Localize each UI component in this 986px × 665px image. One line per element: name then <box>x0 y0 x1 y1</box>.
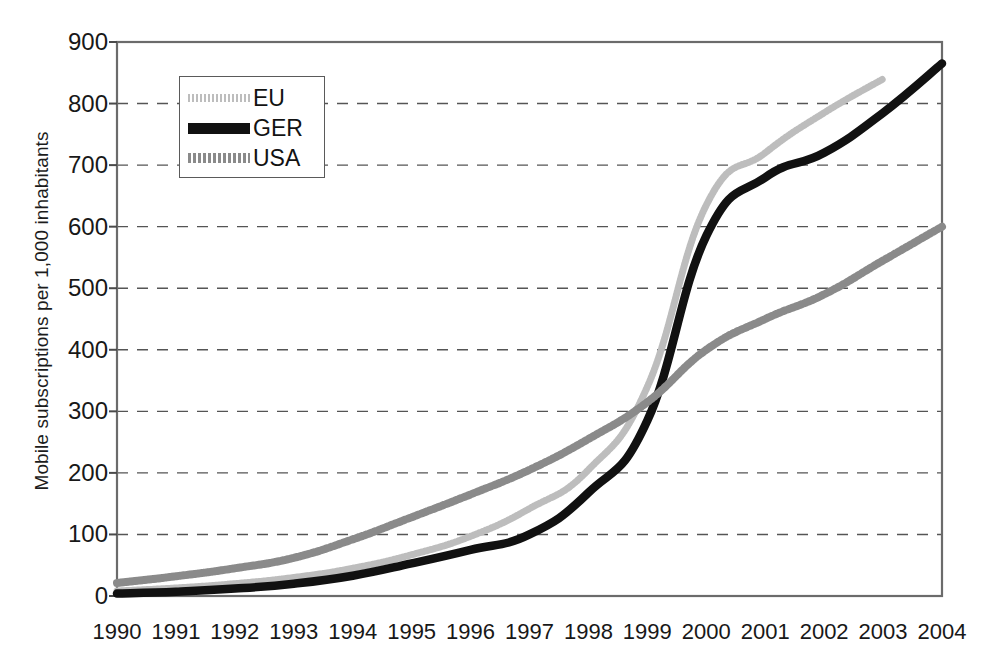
legend-label: GER <box>253 117 303 140</box>
x-axis-tick-label: 2000 <box>682 621 731 643</box>
chart-container: Mobile subscriptions per 1,000 inhabitan… <box>0 0 986 665</box>
x-axis-tick-label: 1997 <box>505 621 554 643</box>
x-axis-tick-label: 1993 <box>269 621 318 643</box>
series-line-usa <box>117 227 942 583</box>
legend-item-eu[interactable]: EU <box>188 83 285 113</box>
legend-swatch-icon <box>188 123 250 134</box>
x-axis-tick-label: 1992 <box>210 621 259 643</box>
legend-item-usa[interactable]: USA <box>188 143 300 173</box>
chart-legend: EUGERUSA <box>179 76 325 178</box>
legend-label: EU <box>253 87 285 110</box>
x-axis-tick-label: 1999 <box>623 621 672 643</box>
legend-item-ger[interactable]: GER <box>188 113 303 143</box>
x-axis-tick-label: 1998 <box>564 621 613 643</box>
x-axis-tick-label: 2003 <box>859 621 908 643</box>
x-axis-tick-label: 1995 <box>387 621 436 643</box>
x-axis-tick-label: 1994 <box>328 621 377 643</box>
x-axis-tick-label: 1991 <box>151 621 200 643</box>
legend-swatch-icon <box>188 153 250 163</box>
x-axis-tick-label: 2001 <box>741 621 790 643</box>
x-axis-tick-label: 1990 <box>93 621 142 643</box>
x-axis-tick-label: 2004 <box>918 621 967 643</box>
legend-label: USA <box>253 147 300 170</box>
x-axis-tick-labels: 1990199119921993199419951996199719981999… <box>0 613 986 653</box>
x-axis-tick-label: 2002 <box>800 621 849 643</box>
x-axis-tick-label: 1996 <box>446 621 495 643</box>
legend-swatch-icon <box>188 94 250 102</box>
plot-area <box>0 0 986 665</box>
